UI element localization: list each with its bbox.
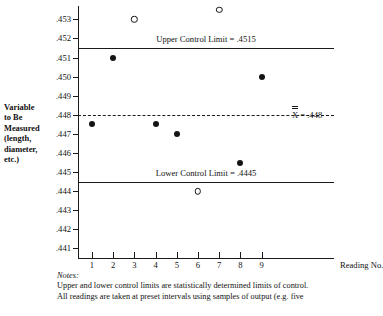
x-axis-line bbox=[78, 258, 334, 259]
data-point-out-of-control bbox=[216, 7, 222, 13]
notes-line-2: All readings are taken at preset interva… bbox=[57, 292, 354, 302]
data-point-in-control bbox=[259, 74, 265, 80]
x-tick-mark bbox=[240, 252, 241, 259]
y-tick-mark bbox=[73, 96, 79, 97]
y-tick-label: .446 bbox=[56, 149, 71, 158]
double-overbar-icon bbox=[292, 106, 298, 110]
y-tick-mark bbox=[73, 248, 79, 249]
y-tick-label: .443 bbox=[56, 206, 71, 215]
x-tick-label: 1 bbox=[90, 261, 94, 270]
notes-block: Notes: Upper and lower control limits ar… bbox=[57, 271, 354, 302]
x-tick-mark bbox=[198, 252, 199, 259]
x-tick-label: 7 bbox=[217, 261, 221, 270]
x-axis-title: Reading No. bbox=[340, 261, 383, 270]
data-point-in-control bbox=[89, 121, 95, 127]
x-tick-mark bbox=[156, 252, 157, 259]
y-tick-label: .450 bbox=[56, 72, 71, 81]
plot-area: .453.452.451.450.449.448.447.446.445.444… bbox=[78, 6, 334, 258]
x-tick-label: 8 bbox=[238, 261, 242, 270]
notes-line-1: Upper and lower control limits are stati… bbox=[57, 281, 354, 291]
mean-value-text: = .448 bbox=[300, 110, 322, 120]
y-tick-mark bbox=[73, 19, 79, 20]
x-tick-label: 6 bbox=[196, 261, 200, 270]
y-tick-label: .451 bbox=[56, 53, 71, 62]
y-tick-label: .449 bbox=[56, 91, 71, 100]
y-tick-mark bbox=[73, 58, 79, 59]
data-point-in-control bbox=[237, 160, 243, 166]
y-tick-label: .442 bbox=[56, 225, 71, 234]
y-tick-mark bbox=[73, 134, 79, 135]
x-tick-mark bbox=[219, 252, 220, 259]
y-tick-mark bbox=[73, 210, 79, 211]
y-tick-label: .453 bbox=[56, 15, 71, 24]
x-tick-mark bbox=[92, 252, 93, 259]
upper-control-limit-label: Upper Control Limit = .4515 bbox=[78, 35, 334, 44]
data-point-in-control bbox=[110, 55, 116, 61]
y-tick-label: .444 bbox=[56, 187, 71, 196]
data-point-in-control bbox=[153, 121, 159, 127]
lower-control-limit-label: Lower Control Limit = .4445 bbox=[78, 169, 334, 178]
notes-heading: Notes: bbox=[57, 271, 354, 281]
y-tick-mark bbox=[73, 153, 79, 154]
y-tick-label: .441 bbox=[56, 244, 71, 253]
x-tick-mark bbox=[262, 252, 263, 259]
y-axis-caption-line-6: etc.) bbox=[4, 155, 62, 165]
y-axis-caption-line-2: to Be bbox=[4, 113, 62, 123]
x-tick-label: 2 bbox=[111, 261, 115, 270]
y-axis-caption-line-3: Measured bbox=[4, 124, 62, 134]
x-tick-mark bbox=[177, 252, 178, 259]
y-tick-label: .445 bbox=[56, 168, 71, 177]
data-point-out-of-control bbox=[195, 188, 201, 194]
y-tick-label: .447 bbox=[56, 130, 71, 139]
x-double-bar-symbol: X bbox=[292, 110, 298, 120]
x-tick-label: 5 bbox=[175, 261, 179, 270]
x-tick-mark bbox=[113, 252, 114, 259]
y-axis-caption-line-4: (length, bbox=[4, 134, 62, 144]
y-tick-mark bbox=[73, 77, 79, 78]
y-tick-label: .452 bbox=[56, 34, 71, 43]
mean-symbol-letter: X bbox=[292, 110, 298, 120]
data-point-out-of-control bbox=[131, 16, 137, 22]
y-tick-mark bbox=[73, 229, 79, 230]
y-axis-caption-line-1: Variable bbox=[4, 103, 62, 113]
lower-control-limit-line bbox=[78, 182, 334, 183]
y-axis-caption: Variable to Be Measured (length, diamete… bbox=[4, 103, 62, 165]
center-line-label: X= .448 bbox=[292, 110, 322, 120]
x-tick-label: 9 bbox=[259, 261, 263, 270]
data-point-in-control bbox=[174, 131, 180, 137]
y-tick-mark bbox=[73, 191, 79, 192]
x-tick-label: 3 bbox=[132, 261, 136, 270]
y-tick-label: .448 bbox=[56, 111, 71, 120]
x-tick-label: 4 bbox=[153, 261, 157, 270]
x-tick-mark bbox=[134, 252, 135, 259]
y-axis-caption-line-5: diameter, bbox=[4, 145, 62, 155]
upper-control-limit-line bbox=[78, 48, 334, 49]
